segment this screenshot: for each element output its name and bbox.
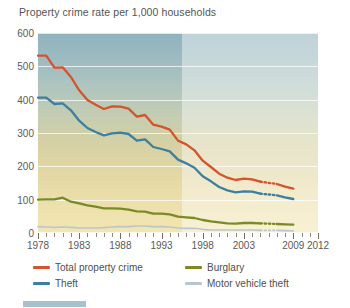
series-line xyxy=(277,195,293,199)
series-line xyxy=(38,98,260,194)
legend-color-swatch xyxy=(185,266,202,269)
legend-item: Motor vehicle theft xyxy=(185,278,289,289)
x-tick xyxy=(260,233,261,237)
x-tick xyxy=(252,233,253,237)
series-line xyxy=(38,226,260,230)
legend-color-swatch xyxy=(33,266,50,269)
x-tick xyxy=(120,233,121,239)
x-tick xyxy=(79,233,80,239)
x-tick xyxy=(285,233,286,237)
property-crime-rate-line-chart: Property crime rate per 1,000 households… xyxy=(0,0,350,308)
x-tick xyxy=(244,233,245,239)
x-tick xyxy=(310,233,311,237)
series-line xyxy=(277,230,293,231)
x-tick-label: 2012 xyxy=(307,240,329,251)
x-tick xyxy=(302,233,303,237)
x-tick xyxy=(162,233,163,239)
x-tick xyxy=(46,233,47,237)
legend-item: Total property crime xyxy=(33,262,143,273)
x-tick xyxy=(63,233,64,237)
x-tick xyxy=(96,233,97,237)
x-tick xyxy=(227,233,228,237)
series-line xyxy=(260,223,276,224)
x-tick xyxy=(153,233,154,237)
legend-label: Motor vehicle theft xyxy=(207,278,289,289)
x-tick xyxy=(71,233,72,237)
x-tick xyxy=(194,233,195,237)
x-tick xyxy=(219,233,220,237)
legend-label: Total property crime xyxy=(55,262,143,273)
legend-item: Burglary xyxy=(185,262,244,273)
y-tick-label: 600 xyxy=(17,28,34,39)
x-tick xyxy=(178,233,179,237)
chart-title: Property crime rate per 1,000 households xyxy=(19,6,216,18)
series-lines xyxy=(38,33,318,233)
x-tick xyxy=(38,233,39,239)
x-tick-label: 1988 xyxy=(109,240,131,251)
x-tick-label: 1998 xyxy=(192,240,214,251)
series-line xyxy=(277,224,293,225)
x-tick xyxy=(104,233,105,237)
y-tick-label: 400 xyxy=(17,94,34,105)
x-axis-ticks xyxy=(38,233,318,239)
series-line xyxy=(38,56,260,182)
series-line xyxy=(260,194,276,196)
x-tick xyxy=(186,233,187,237)
x-tick xyxy=(137,233,138,237)
bottom-accent-bar xyxy=(23,301,86,307)
y-tick-label: 100 xyxy=(17,194,34,205)
x-axis: 19781983198819931998200320092012 xyxy=(0,240,350,254)
x-tick-label: 2009 xyxy=(282,240,304,251)
series-line xyxy=(260,182,276,184)
legend-label: Theft xyxy=(55,278,78,289)
y-tick-label: 200 xyxy=(17,161,34,172)
x-tick xyxy=(203,233,204,239)
y-tick-label: 500 xyxy=(17,61,34,72)
series-line xyxy=(38,198,260,224)
legend-color-swatch xyxy=(185,282,202,285)
x-tick-label: 2003 xyxy=(233,240,255,251)
series-line xyxy=(277,184,293,189)
x-tick xyxy=(170,233,171,237)
x-tick xyxy=(87,233,88,237)
y-axis: 6005004003002001000 xyxy=(0,33,34,233)
x-tick xyxy=(277,233,278,237)
x-tick-label: 1993 xyxy=(150,240,172,251)
legend-color-swatch xyxy=(33,282,50,285)
x-tick xyxy=(293,233,294,239)
x-tick xyxy=(236,233,237,237)
x-tick xyxy=(112,233,113,237)
x-tick xyxy=(54,233,55,237)
plot-area xyxy=(38,33,318,233)
x-tick xyxy=(145,233,146,237)
legend-label: Burglary xyxy=(207,262,244,273)
x-tick-label: 1978 xyxy=(27,240,49,251)
x-tick xyxy=(318,233,319,239)
x-tick xyxy=(269,233,270,237)
legend-item: Theft xyxy=(33,278,78,289)
y-tick-label: 300 xyxy=(17,128,34,139)
chart-legend: Total property crimeBurglaryTheftMotor v… xyxy=(33,262,333,294)
x-tick-label: 1983 xyxy=(68,240,90,251)
x-tick xyxy=(211,233,212,237)
x-tick xyxy=(129,233,130,237)
y-tick-label: 0 xyxy=(28,228,34,239)
